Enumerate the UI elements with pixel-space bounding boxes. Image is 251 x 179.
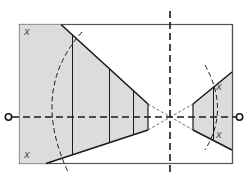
label-top-left: x bbox=[23, 26, 30, 37]
axis-left-endpoint-icon bbox=[5, 114, 11, 120]
label-right-lower: x bbox=[215, 129, 222, 140]
optical-diagram: x x x x bbox=[0, 0, 251, 179]
label-right-upper: x bbox=[215, 81, 222, 92]
axis-right-endpoint-icon bbox=[236, 114, 242, 120]
label-bottom-left: x bbox=[23, 149, 30, 160]
